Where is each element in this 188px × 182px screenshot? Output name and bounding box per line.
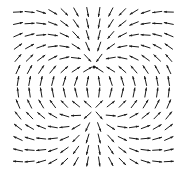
arrowhead-icon (129, 23, 132, 25)
arrowhead-icon (36, 161, 39, 163)
arrowhead-icon (71, 114, 74, 116)
arrowhead-icon (76, 76, 78, 79)
arrowhead-icon (27, 100, 29, 103)
arrowhead-icon (87, 48, 89, 51)
arrowhead-icon (19, 33, 22, 35)
arrowhead-icon (20, 11, 23, 13)
arrowhead-icon (31, 33, 34, 35)
vector-field-plot (0, 0, 188, 182)
arrowhead-icon (74, 88, 76, 91)
arrowhead-icon (54, 23, 57, 25)
arrowhead-icon (159, 149, 162, 151)
arrowhead-icon (118, 35, 121, 37)
arrowhead-icon (171, 160, 174, 162)
arrowhead-icon (124, 138, 127, 140)
arrowhead-icon (130, 56, 133, 58)
arrowhead-icon (153, 44, 156, 46)
arrowhead-icon (60, 138, 63, 140)
arrowhead-icon (109, 76, 111, 79)
arrowhead-icon (64, 76, 66, 79)
arrowhead-icon (99, 129, 101, 132)
arrowhead-icon (135, 113, 138, 115)
arrowhead-icon (111, 163, 113, 166)
arrowhead-icon (98, 48, 100, 51)
arrowhead-icon (13, 136, 16, 138)
arrowhead-icon (18, 65, 20, 68)
arrowhead-icon (66, 56, 69, 58)
arrowhead-icon (13, 160, 16, 162)
arrowhead-icon (124, 114, 127, 116)
arrowhead-icon (170, 136, 173, 138)
arrowhead-icon (52, 76, 54, 79)
arrowhead-icon (60, 114, 63, 116)
arrowhead-icon (132, 76, 134, 79)
arrowhead-icon (141, 34, 144, 36)
arrowhead-icon (157, 100, 159, 103)
arrowhead-icon (86, 140, 88, 143)
arrowhead-icon (167, 65, 169, 68)
arrowhead-icon (25, 137, 28, 139)
arrowhead-icon (31, 44, 34, 46)
arrowhead-icon (164, 33, 167, 35)
arrowhead-icon (159, 137, 162, 139)
arrowhead-icon (147, 161, 150, 163)
arrowhead-icon (135, 150, 138, 152)
arrowhead-icon (109, 13, 111, 16)
arrowhead-icon (110, 88, 112, 91)
arrowhead-icon (16, 99, 18, 102)
arrowhead-icon (43, 12, 46, 14)
arrowhead-icon (54, 56, 57, 58)
arrowhead-icon (43, 45, 46, 47)
arrowhead-icon (152, 33, 155, 35)
arrowhead-icon (141, 45, 144, 47)
sink-point (92, 65, 95, 68)
arrowhead-icon (164, 11, 167, 13)
arrowhead-icon (13, 148, 16, 150)
arrowhead-icon (30, 65, 32, 68)
arrowhead-icon (152, 22, 155, 24)
arrowhead-icon (121, 76, 123, 79)
arrowhead-icon (37, 125, 40, 127)
arrowhead-icon (87, 37, 89, 40)
arrowhead-icon (48, 150, 51, 152)
arrowhead-icon (99, 140, 101, 143)
arrow-group (13, 7, 174, 166)
arrowhead-icon (66, 35, 69, 37)
arrowhead-icon (32, 22, 35, 24)
arrowhead-icon (147, 125, 150, 127)
arrowhead-icon (141, 12, 144, 14)
arrowhead-icon (169, 99, 171, 102)
arrowhead-icon (86, 128, 88, 131)
